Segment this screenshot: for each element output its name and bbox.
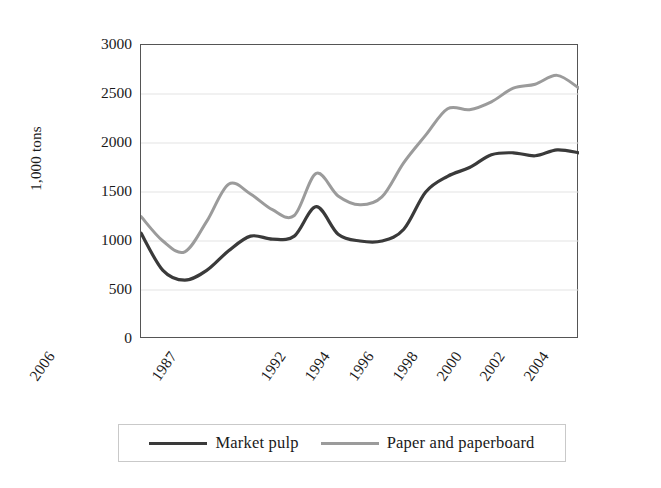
line-chart-figure: 1,000 tons 300025002000150010005000 1987… [0, 0, 661, 488]
x-tick-label: 2004 [513, 348, 553, 394]
x-tick-label: 1994 [294, 348, 334, 394]
x-tick-label: 1992 [250, 348, 290, 394]
legend-line-swatch-icon [149, 442, 207, 445]
x-tick-label: 2006 [19, 348, 59, 394]
chart-legend: Market pulpPaper and paperboard [118, 424, 566, 462]
legend-label: Market pulp [215, 435, 298, 452]
legend-entry-1[interactable]: Market pulp [149, 435, 298, 452]
legend-entry-2[interactable]: Paper and paperboard [321, 435, 535, 452]
legend-label: Paper and paperboard [387, 435, 535, 452]
x-tick-label: 1996 [338, 348, 378, 394]
x-tick-label: 1998 [382, 348, 422, 394]
x-axis-tick-labels: 198719921994199619982000200220042006 [0, 0, 661, 488]
x-tick-label: 1987 [141, 348, 181, 394]
x-tick-label: 2000 [425, 348, 465, 394]
x-tick-label: 2002 [469, 348, 509, 394]
legend-line-swatch-icon [321, 442, 379, 445]
